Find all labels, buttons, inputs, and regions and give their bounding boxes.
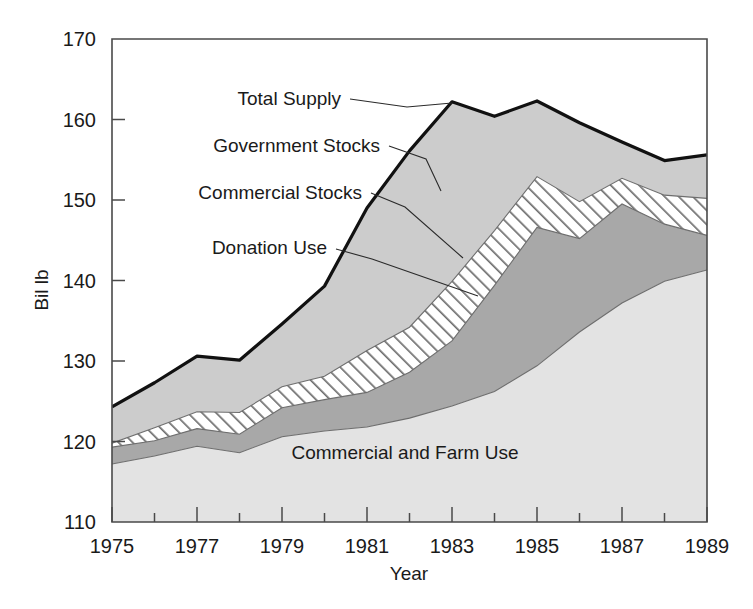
- series-annotation-label: Commercial Stocks: [198, 182, 362, 203]
- series-annotation-label: Donation Use: [212, 237, 327, 258]
- y-tick-label: 140: [63, 270, 96, 292]
- x-tick-label: 1979: [260, 535, 305, 557]
- x-tick-label: 1977: [175, 535, 220, 557]
- chart-canvas: 110120130140150160170 197519771979198119…: [0, 0, 753, 609]
- y-tick-label: 150: [63, 189, 96, 211]
- y-tick-label: 170: [63, 28, 96, 50]
- y-tick-label: 120: [63, 431, 96, 453]
- y-axis-tick-labels: 110120130140150160170: [63, 28, 96, 533]
- series-annotation-label: Total Supply: [237, 88, 341, 109]
- x-tick-label: 1981: [345, 535, 390, 557]
- x-tick-label: 1989: [685, 535, 730, 557]
- y-tick-label: 130: [63, 350, 96, 372]
- x-tick-label: 1975: [90, 535, 135, 557]
- y-axis-title: Bil lb: [31, 269, 52, 310]
- y-tick-label: 110: [64, 511, 96, 533]
- stacked-area-chart: 110120130140150160170 197519771979198119…: [0, 0, 753, 609]
- x-axis-title: Year: [390, 563, 429, 584]
- x-tick-label: 1983: [430, 535, 475, 557]
- series-annotation-label: Commercial and Farm Use: [292, 442, 519, 463]
- y-tick-label: 160: [63, 109, 96, 131]
- series-annotation-label: Government Stocks: [213, 135, 380, 156]
- x-axis-tick-labels: 19751977197919811983198519871989: [90, 535, 730, 557]
- x-tick-label: 1987: [600, 535, 645, 557]
- x-tick-label: 1985: [515, 535, 560, 557]
